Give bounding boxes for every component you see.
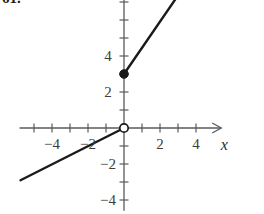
x-axis-label: x bbox=[221, 137, 228, 153]
y-tick-label: −4 bbox=[100, 193, 116, 208]
x-tick-label: −4 bbox=[44, 137, 60, 152]
curve-right-branch bbox=[124, 0, 183, 74]
curve-left-branch bbox=[21, 128, 125, 180]
open-endpoint-circle bbox=[120, 124, 128, 132]
y-tick-label: −2 bbox=[100, 157, 116, 172]
graph-figure: 61. −4−22442−2−4 x y bbox=[0, 0, 264, 214]
y-tick-label: 2 bbox=[104, 85, 112, 100]
x-tick-label: 2 bbox=[156, 137, 164, 152]
closed-endpoint-dot bbox=[120, 70, 129, 79]
y-tick-label: 4 bbox=[104, 49, 112, 64]
x-tick-label: −2 bbox=[80, 137, 96, 152]
coordinate-plane bbox=[0, 0, 264, 214]
x-tick-label: 4 bbox=[192, 137, 200, 152]
